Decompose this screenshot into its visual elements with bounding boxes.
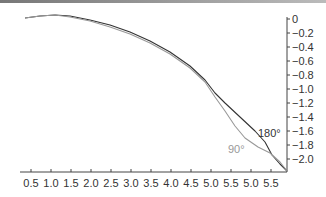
x-tick-label: 2.0: [83, 177, 98, 189]
x-tick-label: 0.5: [23, 177, 38, 189]
x-tick-label: 5.0: [203, 177, 218, 189]
x-tick-label: 3.0: [123, 177, 138, 189]
x-tick-label: 4.5: [183, 177, 198, 189]
x-tick-label: 5.5: [263, 177, 278, 189]
y-tick-label: −0.2: [292, 27, 314, 39]
y-tick-label: −0.6: [292, 55, 314, 67]
series-group: [25, 15, 287, 171]
x-tick-label: 4.0: [163, 177, 178, 189]
y-tick-label: 0: [292, 13, 298, 25]
y-tick-label: −2.0: [292, 153, 314, 165]
y-tick-label: −1.2: [292, 97, 314, 109]
y-tick-label: −1.6: [292, 125, 314, 137]
x-tick-label: 5.5: [223, 177, 238, 189]
x-tick-label: 5.0: [243, 177, 258, 189]
y-tick-label: −1.0: [292, 83, 314, 95]
x-tick-label: 1.0: [43, 177, 58, 189]
series-label-90deg: 90°: [228, 143, 245, 155]
annotations: 180°90°: [228, 127, 281, 155]
y-tick-label: −0.8: [292, 69, 314, 81]
axes: 0.51.01.52.02.53.03.54.04.55.05.55.05.50…: [20, 13, 314, 189]
x-tick-label: 2.5: [103, 177, 118, 189]
series-line-90deg: [25, 15, 287, 171]
y-tick-label: −1.4: [292, 111, 314, 123]
x-tick-label: 1.5: [63, 177, 78, 189]
series-line-180deg: [25, 15, 287, 171]
line-chart: 0.51.01.52.02.53.03.54.04.55.05.55.05.50…: [0, 0, 326, 197]
series-label-180deg: 180°: [258, 127, 281, 139]
x-tick-label: 3.5: [143, 177, 158, 189]
y-tick-label: −0.4: [292, 41, 314, 53]
y-tick-label: −1.8: [292, 139, 314, 151]
